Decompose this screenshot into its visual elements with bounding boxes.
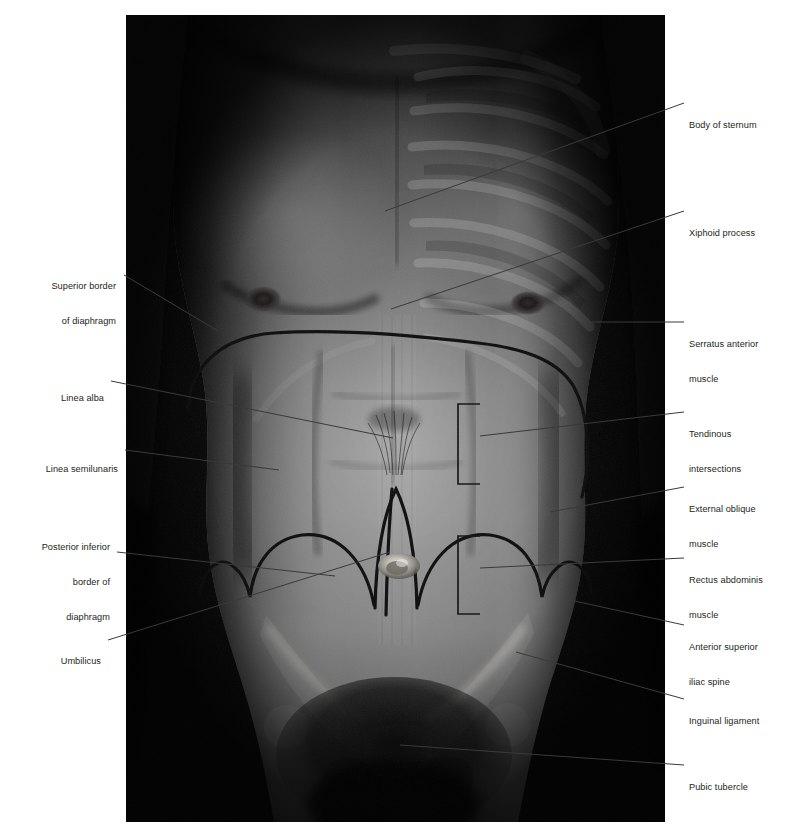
label-line: muscle — [689, 539, 756, 551]
anatomy-figure: Superior border of diaphragm Linea alba … — [0, 0, 790, 837]
label-xiphoid-process: Xiphoid process — [689, 205, 755, 263]
label-superior-border-of-diaphragm: Superior border of diaphragm — [0, 258, 116, 351]
label-line: of diaphragm — [0, 316, 116, 328]
label-line: Serratus anterior — [689, 339, 758, 351]
label-line: Linea alba — [0, 393, 104, 405]
label-line: muscle — [689, 374, 758, 386]
label-body-of-sternum: Body of sternum — [689, 97, 757, 155]
label-line: Umbilicus — [0, 656, 101, 668]
label-line: Xiphoid process — [689, 228, 755, 240]
label-pubic-tubercle: Pubic tubercle — [689, 759, 748, 817]
label-line: Rectus abdominis — [689, 575, 763, 587]
label-line: border of — [0, 577, 110, 589]
label-line: diaphragm — [0, 612, 110, 624]
label-linea-alba: Linea alba — [0, 370, 104, 428]
label-line: iliac spine — [689, 677, 758, 689]
anatomy-photograph — [126, 15, 665, 822]
vignette — [126, 15, 665, 822]
label-line: intersections — [689, 464, 741, 476]
photo-canvas — [126, 15, 665, 822]
label-serratus-anterior-muscle: Serratus anterior muscle — [689, 316, 758, 409]
label-line: External oblique — [689, 504, 756, 516]
label-linea-semilunaris: Linea semilunaris — [0, 441, 118, 499]
label-line: Body of sternum — [689, 120, 757, 132]
label-posterior-inferior-border-of-diaphragm: Posterior inferior border of diaphragm — [0, 519, 110, 647]
label-umbilicus: Umbilicus — [0, 633, 101, 691]
label-line: Tendinous — [689, 429, 741, 441]
label-inguinal-ligament: Inguinal ligament — [689, 693, 759, 751]
label-line: Anterior superior — [689, 642, 758, 654]
label-line: Superior border — [0, 281, 116, 293]
label-line: Inguinal ligament — [689, 716, 759, 728]
label-line: Posterior inferior — [0, 542, 110, 554]
label-line: Pubic tubercle — [689, 782, 748, 794]
label-line: Linea semilunaris — [0, 464, 118, 476]
